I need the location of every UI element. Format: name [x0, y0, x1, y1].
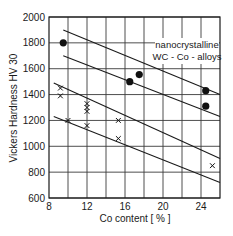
cross-marker — [116, 136, 121, 141]
x-axis-label: Co content [ % ] — [99, 213, 170, 224]
cross-marker — [210, 163, 215, 168]
y-tick-label: 600 — [28, 193, 45, 204]
filled-circle-marker — [136, 71, 143, 78]
annotation-line-2: WC - Co - alloys — [152, 51, 221, 62]
x-tick-label: 16 — [119, 201, 131, 212]
filled-circle-marker — [202, 103, 209, 110]
y-tick-label: 1400 — [23, 89, 46, 100]
y-tick-label: 1800 — [23, 37, 46, 48]
y-axis-tick-labels: 600800100012001400160018002000 — [23, 12, 46, 204]
x-tick-label: 20 — [157, 201, 169, 212]
x-tick-label: 12 — [81, 201, 93, 212]
filled-circle-marker — [126, 78, 133, 85]
y-tick-label: 2000 — [23, 12, 46, 23]
conventional-lower-bound-line — [54, 117, 220, 183]
x-tick-label: 24 — [195, 201, 207, 212]
hardness-chart: 600800100012001400160018002000 812162024… — [0, 0, 233, 236]
filled-circle-marker — [60, 39, 67, 46]
y-axis-label: Vickers Hardness HV 30 — [8, 53, 19, 162]
y-tick-label: 1600 — [23, 63, 46, 74]
y-tick-label: 1000 — [23, 141, 46, 152]
filled-circle-marker — [202, 87, 209, 94]
y-tick-label: 1200 — [23, 115, 46, 126]
x-axis-tick-labels: 812162024 — [46, 201, 207, 212]
y-tick-label: 800 — [28, 167, 45, 178]
annotation-line-1: nanocrystalline — [155, 39, 218, 50]
x-tick-label: 8 — [46, 201, 52, 212]
